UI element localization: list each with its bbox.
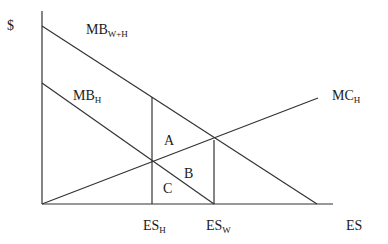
diagram-canvas: $ ES MBW+H MBH MCH A B C ESH ESW xyxy=(0,0,388,244)
es-w-tick-label: ESW xyxy=(206,218,231,235)
mb-h-curve xyxy=(42,83,214,204)
mb-h-label: MBH xyxy=(73,88,102,105)
y-axis-label: $ xyxy=(7,18,14,33)
region-c-label: C xyxy=(163,181,172,196)
es-h-tick-label: ESH xyxy=(143,218,166,235)
x-axis-label: ES xyxy=(346,218,362,233)
mc-h-curve xyxy=(42,98,318,204)
region-a-label: A xyxy=(164,133,175,148)
mb-w-plus-h-curve xyxy=(42,26,317,204)
mc-h-label: MCH xyxy=(332,88,361,105)
mb-w-plus-h-label: MBW+H xyxy=(86,22,128,39)
region-b-label: B xyxy=(184,166,193,181)
